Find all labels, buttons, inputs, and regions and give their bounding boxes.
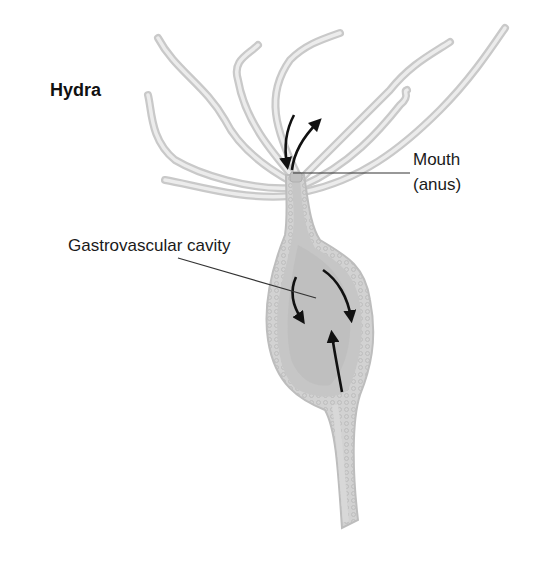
- gastrovascular-cavity-label: Gastrovascular cavity: [68, 236, 231, 256]
- mouth-label: Mouth: [413, 150, 460, 170]
- diagram-title: Hydra: [50, 80, 101, 100]
- hydra-body: [266, 172, 373, 528]
- anus-label: (anus): [413, 175, 461, 195]
- tentacles: [148, 28, 505, 197]
